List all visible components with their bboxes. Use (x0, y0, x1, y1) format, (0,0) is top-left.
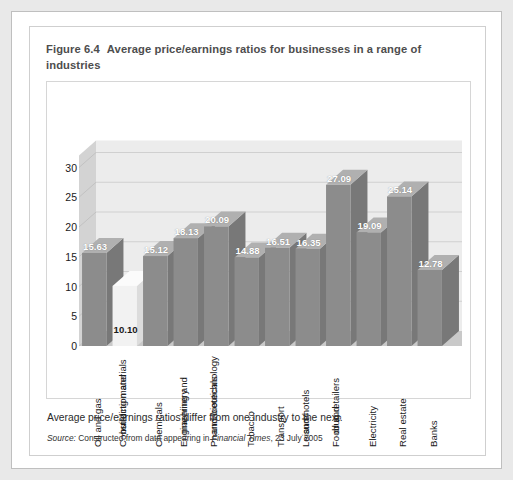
bar-front-face (418, 270, 442, 346)
source-text-1: Constructed from data appearing in (78, 433, 209, 443)
bar-value-label: 25.14 (388, 184, 412, 195)
bar-value-label: 20.09 (205, 214, 229, 225)
bar-value-label: 12.78 (419, 258, 443, 269)
bar-front-face (82, 253, 106, 346)
bar-value-label: 16.35 (297, 237, 321, 248)
figure-title: Figure 6.4Average price/earnings ratios … (46, 41, 466, 73)
bar-front-face (204, 226, 228, 346)
bar-front-face (143, 256, 167, 346)
source-label: Source: (47, 433, 76, 443)
bar-front-face (113, 286, 137, 346)
bar-value-label: 15.12 (144, 244, 168, 255)
y-axis-tick-label: 30 (51, 162, 77, 174)
bar-value-label: 15.63 (83, 241, 107, 252)
bar-front-face (357, 232, 381, 346)
y-axis-tick-label: 25 (51, 191, 77, 203)
x-axis-category-labels: Oil and gasConstruction andbuilding mate… (46, 399, 471, 451)
bar-front-face (326, 185, 350, 346)
bar-value-label: 16.51 (266, 236, 290, 247)
bar-value-label: 18.13 (175, 226, 199, 237)
bar-side-face (442, 255, 459, 346)
bar-value-label: 14.88 (236, 245, 260, 256)
page-frame: Figure 6.4Average price/earnings ratios … (11, 11, 502, 469)
figure-page: Figure 6.4Average price/earnings ratios … (0, 0, 513, 480)
figure-number: Figure 6.4 (46, 43, 100, 55)
chart-plot-frame: 051015202530 15.6310.1015.1218.1320.0914… (46, 81, 471, 399)
y-axis-tick-label: 15 (51, 251, 77, 263)
y-axis-ticks: 051015202530 (47, 82, 77, 400)
figure-caption: Average price/earnings ratios differ fro… (47, 412, 471, 423)
figure-title-text: Average price/earnings ratios for busine… (46, 43, 421, 71)
bar-value-label: 27.09 (327, 173, 351, 184)
y-axis-tick-label: 0 (51, 340, 77, 352)
figure-card: Figure 6.4Average price/earnings ratios … (29, 26, 486, 456)
bar-front-face (265, 248, 289, 346)
source-text-2: , 23 July 2005 (270, 433, 322, 443)
bar-value-label: 19.09 (358, 220, 382, 231)
y-axis-tick-label: 20 (51, 221, 77, 233)
bar-front-face (296, 249, 320, 346)
bar-front-face (235, 257, 259, 346)
bar-front-face (387, 196, 411, 346)
bar-front-face (174, 238, 198, 346)
source-publication: Financial Times (212, 433, 271, 443)
y-axis-tick-label: 10 (51, 281, 77, 293)
bar-chart-3d (47, 82, 472, 400)
figure-source: Source: Constructed from data appearing … (47, 433, 471, 443)
bar-value-label: 10.10 (114, 324, 138, 335)
y-axis-tick-label: 5 (51, 310, 77, 322)
